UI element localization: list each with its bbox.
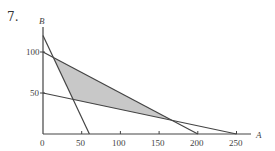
x-tick-50: 50 [76,138,86,148]
constraint-line-2 [43,52,198,134]
y-axis-label: B [39,16,45,26]
y-tick-50: 50 [30,88,40,98]
x-tick-0: 0 [40,138,45,148]
x-tick-100: 100 [112,138,126,148]
constraint-line-3 [43,93,237,134]
x-tick-150: 150 [151,138,165,148]
y-tick-100: 100 [26,47,40,57]
x-axis-label: A [255,130,262,140]
x-tick-200: 200 [190,138,204,148]
x-tick-250: 250 [229,138,243,148]
chart: B A 100 50 0 50 100 150 200 250 [0,0,275,151]
